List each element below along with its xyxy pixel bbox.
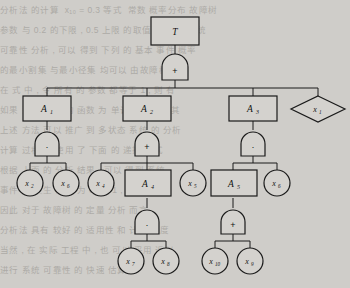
- figure-canvas: 分析法 的计算 x₁₀ = 0.3 等式 常数 概率分布 故障树参数 与 0.2…: [0, 0, 350, 288]
- gate-a4[interactable]: ·: [135, 210, 159, 234]
- x5-label-sub: 5: [194, 183, 197, 189]
- a5-box[interactable]: [211, 170, 257, 196]
- node-top-event[interactable]: T: [151, 17, 199, 45]
- x7-circle[interactable]: [118, 248, 144, 274]
- x4-label: x: [95, 179, 100, 188]
- a1-label-sub: 1: [50, 109, 53, 115]
- x10-label: x: [208, 257, 213, 266]
- gate-a1[interactable]: ·: [35, 132, 59, 156]
- gate-a3[interactable]: ·: [241, 132, 265, 156]
- x8-circle[interactable]: [153, 248, 179, 274]
- x5-label: x: [187, 179, 192, 188]
- a3-label: A: [246, 104, 253, 114]
- x4-label-sub: 4: [102, 183, 105, 189]
- gate-top[interactable]: +: [162, 54, 188, 80]
- a5-label: A: [227, 179, 234, 189]
- a4-label-sub: 4: [151, 184, 154, 190]
- gate-a5[interactable]: +: [221, 210, 245, 234]
- x1-diamond-shape[interactable]: [291, 96, 345, 122]
- x9-label-sub: 9: [251, 261, 254, 267]
- x6b-circle[interactable]: [264, 170, 290, 196]
- x1-label: x: [312, 105, 317, 114]
- node-x5[interactable]: x 5: [180, 170, 206, 196]
- gate-a5-symbol: +: [230, 220, 235, 230]
- x6a-label: x: [60, 179, 65, 188]
- gate-a3-symbol: ·: [252, 142, 255, 152]
- a1-box[interactable]: [23, 96, 71, 121]
- node-a3[interactable]: A 3: [229, 96, 277, 121]
- x9-label: x: [244, 257, 249, 266]
- gate-a1-symbol: ·: [46, 142, 49, 152]
- node-x7[interactable]: x 7: [118, 248, 144, 274]
- x6b-label: x: [271, 179, 276, 188]
- node-a2[interactable]: A 2: [123, 96, 171, 121]
- x6b-label-sub: 6: [278, 183, 281, 189]
- gate-a2-symbol: +: [144, 142, 149, 152]
- a4-box[interactable]: [125, 170, 171, 196]
- node-x9[interactable]: x 9: [237, 248, 263, 274]
- gate-top-symbol: +: [172, 66, 177, 76]
- a3-label-sub: 3: [255, 109, 259, 115]
- x5-circle[interactable]: [180, 170, 206, 196]
- node-x4[interactable]: x 4: [88, 170, 114, 196]
- node-a1[interactable]: A 1: [23, 96, 71, 121]
- node-x6-a[interactable]: x 6: [53, 170, 79, 196]
- node-x2[interactable]: x 2: [17, 170, 43, 196]
- gate-a4-symbol: ·: [146, 220, 149, 230]
- x8-label: x: [160, 257, 165, 266]
- x4-circle[interactable]: [88, 170, 114, 196]
- node-a4[interactable]: A 4: [125, 170, 171, 196]
- a3-box[interactable]: [229, 96, 277, 121]
- a5-label-sub: 5: [237, 184, 240, 190]
- a1-label: A: [40, 104, 47, 114]
- x2-label-sub: 2: [31, 183, 34, 189]
- a4-label: A: [141, 179, 148, 189]
- x6a-label-sub: 6: [67, 183, 70, 189]
- node-x1-diamond[interactable]: x 1: [291, 96, 345, 122]
- x9-circle[interactable]: [237, 248, 263, 274]
- x7-label: x: [125, 257, 130, 266]
- x8-label-sub: 8: [167, 261, 170, 267]
- a2-box[interactable]: [123, 96, 171, 121]
- node-x6-b[interactable]: x 6: [264, 170, 290, 196]
- node-a5[interactable]: A 5: [211, 170, 257, 196]
- top-event-label: T: [172, 27, 178, 37]
- x10-label-sub: 10: [215, 261, 221, 267]
- fault-tree-svg: T + A 1 · x 2 x 6 A: [0, 0, 350, 288]
- node-x10[interactable]: x 10: [202, 248, 228, 274]
- a2-label-sub: 2: [150, 109, 153, 115]
- x7-label-sub: 7: [132, 261, 135, 267]
- gate-a2[interactable]: +: [135, 132, 159, 156]
- x2-label: x: [24, 179, 29, 188]
- x2-circle[interactable]: [17, 170, 43, 196]
- x6a-circle[interactable]: [53, 170, 79, 196]
- a2-label: A: [140, 104, 147, 114]
- node-x8[interactable]: x 8: [153, 248, 179, 274]
- x1-label-sub: 1: [319, 109, 322, 115]
